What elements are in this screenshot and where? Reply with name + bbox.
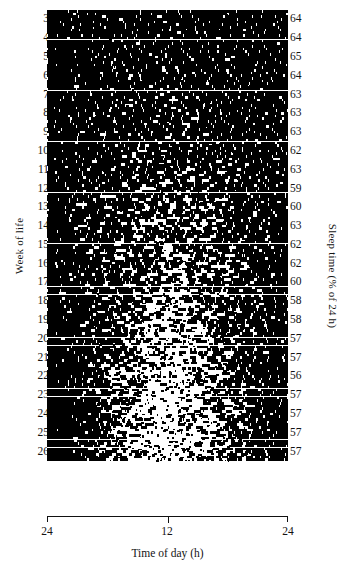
week-tick-label: 17 [21,276,49,287]
week-tick-label: 3 [21,13,49,24]
sleep-percent-tick-label: 63 [290,89,318,100]
week-tick-label: 13 [21,201,49,212]
sleep-percent-tick-label: 60 [290,201,318,212]
sleep-percent-tick-column: 6464656463636362635960636262605858575756… [290,0,318,510]
sleep-percent-tick-label: 57 [290,427,318,438]
x-tick-label-left: 24 [27,525,67,537]
week-tick-label: 7 [21,89,49,100]
sleep-percent-tick-label: 65 [290,51,318,62]
actogram-day-row [47,458,288,461]
week-tick-label: 6 [21,70,49,81]
week-tick-label: 23 [21,389,49,400]
week-tick-column: 3456789101112131415161718192021222324252… [21,0,49,510]
week-tick-label: 4 [21,32,49,43]
sleep-percent-tick-label: 56 [290,370,318,381]
sleep-percent-tick-label: 63 [290,220,318,231]
x-axis-mid-tick [168,517,169,523]
sleep-percent-tick-label: 57 [290,408,318,419]
sleep-percent-tick-label: 59 [290,183,318,194]
sleep-percent-tick-label: 62 [290,258,318,269]
sleep-percent-tick-label: 57 [290,333,318,344]
week-tick-label: 25 [21,427,49,438]
sleep-percent-tick-label: 60 [290,276,318,287]
sleep-percent-tick-label: 63 [290,164,318,175]
week-tick-label: 19 [21,314,49,325]
week-tick-label: 14 [21,220,49,231]
week-tick-label: 24 [21,408,49,419]
week-tick-label: 22 [21,370,49,381]
actogram-figure: Week of life Sleep time (% of 24 h) 3456… [0,0,337,568]
week-tick-label: 10 [21,145,49,156]
sleep-percent-tick-label: 64 [290,70,318,81]
week-tick-label: 15 [21,239,49,250]
sleep-percent-tick-label: 57 [290,389,318,400]
x-axis-line [47,516,288,522]
week-tick-label: 8 [21,107,49,118]
sleep-percent-tick-label: 63 [290,107,318,118]
week-tick-label: 21 [21,352,49,363]
sleep-percent-tick-label: 58 [290,295,318,306]
sleep-percent-tick-label: 64 [290,13,318,24]
sleep-percent-tick-label: 62 [290,145,318,156]
x-tick-label-mid: 12 [147,525,187,537]
x-axis-label: Time of day (h) [47,547,288,559]
sleep-percent-tick-label: 57 [290,446,318,457]
week-tick-label: 16 [21,258,49,269]
week-tick-label: 9 [21,126,49,137]
x-tick-label-right: 24 [268,525,308,537]
sleep-percent-tick-label: 57 [290,352,318,363]
sleep-percent-tick-label: 58 [290,314,318,325]
week-tick-label: 5 [21,51,49,62]
actogram-plot-area [47,10,288,512]
sleep-percent-tick-label: 63 [290,126,318,137]
week-tick-label: 11 [21,164,49,175]
week-tick-label: 26 [21,446,49,457]
week-tick-label: 12 [21,183,49,194]
sleep-percent-tick-label: 64 [290,32,318,43]
sleep-percent-tick-label: 62 [290,239,318,250]
week-tick-label: 20 [21,333,49,344]
week-tick-label: 18 [21,295,49,306]
y-axis-label-right: Sleep time (% of 24 h) [327,206,337,346]
